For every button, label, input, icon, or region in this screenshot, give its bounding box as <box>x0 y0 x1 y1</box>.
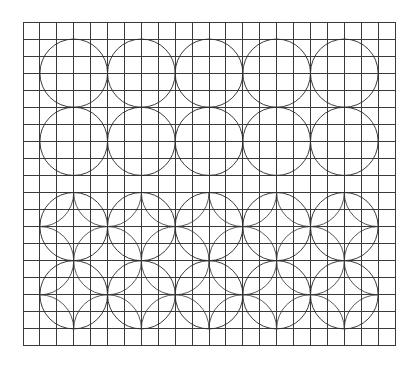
grid-circle-pattern-diagram <box>0 0 419 367</box>
square-grid <box>23 22 395 346</box>
